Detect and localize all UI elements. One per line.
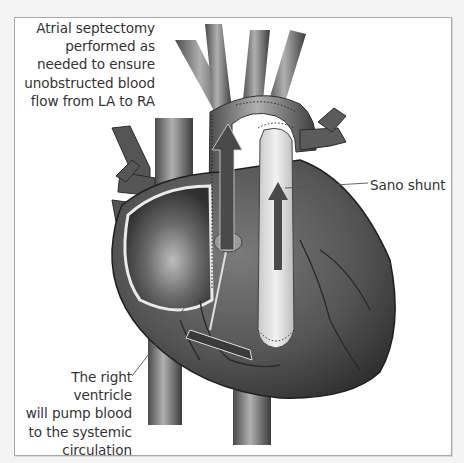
right-ventricle-label: The right ventricle will pump blood to t… <box>20 368 132 459</box>
label-line: needed to ensure <box>20 55 155 73</box>
label-line: performed as <box>20 37 155 55</box>
label-line: to the systemic <box>20 423 132 441</box>
label-line: flow from LA to RA <box>20 92 155 110</box>
sano-shunt-label: Sano shunt <box>370 176 445 194</box>
label-line: unobstructed blood <box>20 74 155 92</box>
label-line: circulation <box>20 441 132 459</box>
label-line: Sano shunt <box>370 176 445 194</box>
label-line: will pump blood <box>20 404 132 422</box>
atrial-septectomy-label: Atrial septectomy performed as needed to… <box>20 19 155 110</box>
label-line: Atrial septectomy <box>20 19 155 37</box>
label-line: The right ventricle <box>20 368 132 404</box>
